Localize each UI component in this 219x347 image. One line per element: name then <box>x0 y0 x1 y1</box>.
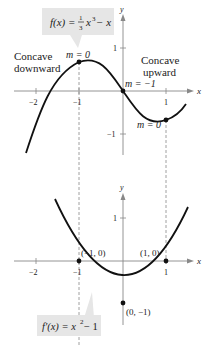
bottom-ytick-1: 1 <box>113 214 117 223</box>
top-min-point <box>164 118 169 123</box>
bottom-x-label: x <box>196 256 201 266</box>
bottom-formula-tail: − 1 <box>84 321 98 332</box>
bottom-y-label: y <box>119 183 124 192</box>
top-formula-den: 3 <box>79 24 83 32</box>
bottom-vertex-point <box>121 301 126 306</box>
bottom-graph: x y −2 −1 1 1 (−1, 0) (1, 0) (0, −1) f′(… <box>14 183 201 336</box>
top-inflection-label: m = −1 <box>125 78 156 89</box>
top-y-arrow-icon <box>121 14 126 21</box>
bottom-x-arrow-icon <box>187 259 194 264</box>
bottom-formula: f′(x) = x <box>42 321 76 333</box>
bottom-curve <box>55 199 188 275</box>
top-tick-neg2: −2 <box>29 98 38 107</box>
top-ytick-neg1: −1 <box>107 130 116 139</box>
top-ytick-1: 1 <box>113 44 117 53</box>
bottom-root-left-point <box>77 259 82 264</box>
bottom-tick-neg2: −2 <box>29 268 38 277</box>
bottom-vertex-label: (0, −1) <box>126 307 151 317</box>
concave-up-line2: upward <box>143 66 176 78</box>
concave-up-line1: Concave <box>141 54 180 66</box>
concave-down-line1: Concave <box>14 50 53 62</box>
top-tick-pos1: 1 <box>164 98 168 107</box>
chart-figure: f(x) = 1 3 x 3 − x x y −2 −1 1 1 −1 m = <box>0 0 219 347</box>
top-formula-x: x <box>85 16 91 28</box>
bottom-formula-pointer <box>84 292 94 318</box>
top-formula-num: 1 <box>79 14 83 22</box>
top-min-label: m = 0 <box>137 119 161 130</box>
bottom-root-right-point <box>164 259 169 264</box>
top-formula-tail: − x <box>96 16 111 28</box>
bottom-tick-neg1: −1 <box>73 268 82 277</box>
bottom-y-arrow-icon <box>121 193 126 200</box>
concave-down-line2: downward <box>14 62 61 74</box>
top-max-point <box>77 60 82 65</box>
top-inflection-point <box>121 89 126 94</box>
top-formula-pointer <box>70 35 82 48</box>
top-max-label: m = 0 <box>66 49 90 60</box>
bottom-tick-pos1: 1 <box>164 268 168 277</box>
top-y-label: y <box>119 5 124 14</box>
top-x-label: x <box>196 86 201 96</box>
top-x-arrow-icon <box>187 89 194 94</box>
bottom-root-right-label: (1, 0) <box>140 248 160 258</box>
top-tick-neg1: −1 <box>73 98 82 107</box>
top-graph: f(x) = 1 3 x 3 − x x y −2 −1 1 1 −1 m = <box>14 5 201 345</box>
bottom-root-left-label: (−1, 0) <box>81 248 106 258</box>
top-formula-prefix: f(x) = <box>50 16 75 29</box>
